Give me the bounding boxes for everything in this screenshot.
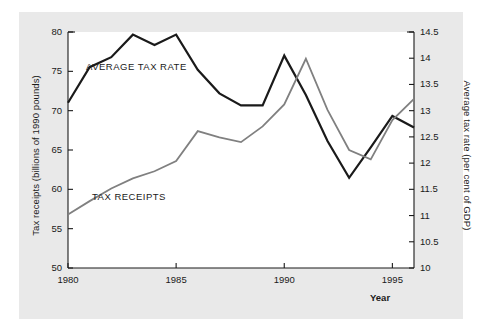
- y-tick-label-left: 50: [36, 262, 62, 273]
- x-tick-label: 1995: [369, 274, 415, 285]
- x-tick-label: 1980: [45, 274, 91, 285]
- chart-figure: Tax receipts (billions of 1990 pounds) A…: [0, 0, 482, 331]
- series-label-tax-receipts: TAX RECEIPTS: [92, 191, 166, 202]
- y-tick-label-right: 13: [420, 105, 450, 116]
- series-label-average-tax-rate: AVERAGE TAX RATE: [86, 61, 187, 72]
- y-tick-label-left: 80: [36, 26, 62, 37]
- y-tick-label-right: 11: [420, 210, 450, 221]
- y-tick-label-right: 10.5: [420, 236, 450, 247]
- y-tick-label-left: 65: [36, 144, 62, 155]
- y-tick-label-right: 14.5: [420, 26, 450, 37]
- y-tick-label-right: 10: [420, 262, 450, 273]
- y-tick-label-right: 14: [420, 52, 450, 63]
- y-tick-label-left: 75: [36, 65, 62, 76]
- y-tick-label-left: 60: [36, 183, 62, 194]
- y-tick-label-right: 11.5: [420, 183, 450, 194]
- y-tick-label-right: 12.5: [420, 131, 450, 142]
- y-axis-right-title: Average tax rate (per cent of GDP): [462, 41, 473, 271]
- x-axis-title: Year: [370, 292, 390, 303]
- x-tick-label: 1990: [261, 274, 307, 285]
- y-tick-label-left: 55: [36, 223, 62, 234]
- y-tick-label-right: 12: [420, 157, 450, 168]
- y-tick-label-right: 13.5: [420, 78, 450, 89]
- y-tick-label-left: 70: [36, 105, 62, 116]
- x-tick-label: 1985: [153, 274, 199, 285]
